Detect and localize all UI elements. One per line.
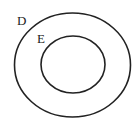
set-d-label: D [17,13,26,28]
venn-diagram: D E [0,0,139,124]
set-e-label: E [37,31,45,46]
set-e-outline [41,36,105,93]
set-d-outline [15,13,131,117]
